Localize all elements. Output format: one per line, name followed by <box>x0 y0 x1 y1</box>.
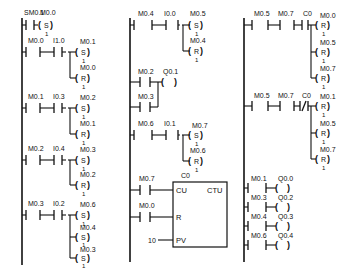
coil-label: M0.6 <box>80 201 96 208</box>
svg-text:(: ( <box>75 73 78 83</box>
svg-text:(: ( <box>315 47 318 57</box>
svg-text:(: ( <box>75 210 78 220</box>
no-contact-icon <box>280 20 294 30</box>
output-coil-icon: () <box>161 77 177 87</box>
contact-label: M0.5 <box>254 92 270 99</box>
svg-text:S: S <box>81 212 86 219</box>
svg-text:(: ( <box>75 103 78 113</box>
contact-label: I0.1 <box>164 120 176 127</box>
svg-text:S: S <box>81 49 86 56</box>
rung: M0.2 M0.3 Q0.1 () <box>130 68 178 112</box>
contact-label: M0.3 <box>138 93 154 100</box>
svg-text:(: ( <box>75 129 78 139</box>
no-contact-icon <box>54 155 62 165</box>
svg-text:(: ( <box>75 47 78 57</box>
svg-text:S: S <box>194 22 199 29</box>
no-contact-icon <box>140 212 150 222</box>
no-contact-icon <box>26 20 34 30</box>
svg-text:): ) <box>87 73 90 83</box>
svg-text:S: S <box>81 234 86 241</box>
coil-label: M0.5 <box>320 39 336 46</box>
svg-text:R: R <box>321 156 326 163</box>
svg-text:): ) <box>87 155 90 165</box>
svg-text:(: ( <box>188 130 191 140</box>
output-coil-icon: () <box>275 221 290 231</box>
coil-label: M0.7 <box>192 122 208 129</box>
svg-text:): ) <box>87 47 90 57</box>
rung: M0.0 I1.0 M0.1 (S) 1 M0.0 (R) 1 <box>22 37 96 90</box>
no-contact-icon <box>248 240 266 250</box>
no-contact-icon <box>140 102 150 112</box>
coil-label: M0.2 <box>80 94 96 101</box>
svg-text:): ) <box>87 210 90 220</box>
counter-name: C0 <box>181 172 190 179</box>
set-coil-icon: (S) <box>188 20 203 30</box>
set-coil-icon: (S) <box>75 232 90 242</box>
svg-text:S: S <box>81 105 86 112</box>
coil-count: 1 <box>322 139 326 145</box>
no-contact-icon <box>134 130 152 140</box>
coil-label: M0.3 <box>80 246 96 253</box>
coil-label: M0.1 <box>320 93 336 100</box>
svg-text:R: R <box>81 182 86 189</box>
coil-count: 1 <box>322 165 326 171</box>
contact-label: M0.3 <box>28 200 44 207</box>
cu-pin-label: CU <box>176 186 187 195</box>
svg-text:): ) <box>200 46 203 56</box>
coil-label: M0.5 <box>320 120 336 127</box>
no-contact-icon <box>248 183 266 193</box>
no-contact-icon <box>252 20 268 30</box>
contact-label: M0.7 <box>278 10 294 17</box>
svg-text:): ) <box>287 240 290 250</box>
svg-text:S: S <box>194 132 199 139</box>
coil-label: Q0.4 <box>278 232 293 240</box>
svg-text:(: ( <box>188 156 191 166</box>
pv-pin-label: PV <box>176 236 186 245</box>
no-contact-icon <box>26 47 40 57</box>
svg-text:): ) <box>327 154 330 164</box>
coil-label: M0.6 <box>190 147 206 154</box>
coil-label: M0.2 <box>80 171 96 178</box>
svg-text:(: ( <box>275 183 278 193</box>
no-contact-icon <box>26 103 40 113</box>
svg-text:S: S <box>81 255 86 262</box>
svg-text:): ) <box>327 101 330 111</box>
svg-text:): ) <box>327 20 330 30</box>
coil-count: 1 <box>82 84 86 90</box>
coil-label: Q0.3 <box>278 213 293 221</box>
coil-label: M0.0 <box>40 9 56 16</box>
contact-label: M0.1 <box>28 93 44 100</box>
set-coil-icon: (S) <box>188 130 203 140</box>
rung: M0.3 Q0.2 () <box>244 194 293 212</box>
svg-text:(: ( <box>275 202 278 212</box>
reset-coil-icon: (R) <box>188 156 203 166</box>
set-coil-icon: (S) <box>75 103 90 113</box>
coil-label: Q0.1 <box>163 68 178 76</box>
svg-text:R: R <box>321 103 326 110</box>
svg-text:(: ( <box>38 20 41 30</box>
set-coil-icon: (S) <box>75 155 90 165</box>
svg-text:): ) <box>200 156 203 166</box>
no-contact-icon <box>248 221 266 231</box>
contact-label: M0.1 <box>251 175 267 182</box>
output-coil-icon: () <box>275 202 290 212</box>
coil-count: 1 <box>45 31 49 37</box>
no-contact-icon <box>140 185 150 195</box>
column-3: M0.5 M0.7 C0 M0.0 (R) 1 M0.5 (R) 1 M0.7 … <box>244 10 336 262</box>
svg-text:R: R <box>321 22 326 29</box>
rung: M0.1 I0.3 M0.2 (S) 1 M0.1 (R) 1 <box>22 93 96 146</box>
svg-text:(: ( <box>315 73 318 83</box>
no-contact-icon <box>134 20 152 30</box>
coil-label: Q0.0 <box>278 175 293 183</box>
contact-label: I1.0 <box>53 37 65 44</box>
coil-label: M0.1 <box>80 38 96 45</box>
set-coil-icon: (S) <box>75 253 90 263</box>
rung: M0.4 Q0.3 () <box>244 213 293 231</box>
no-contact-icon <box>140 77 150 87</box>
no-contact-icon <box>26 155 40 165</box>
no-contact-icon <box>54 103 62 113</box>
coil-label: M0.4 <box>190 37 206 44</box>
rung: M0.3 I0.2 M0.6 (S) 1 M0.4 (S) 1 M0.3 (S)… <box>22 200 96 269</box>
svg-text:): ) <box>200 130 203 140</box>
svg-text:R: R <box>81 75 86 82</box>
